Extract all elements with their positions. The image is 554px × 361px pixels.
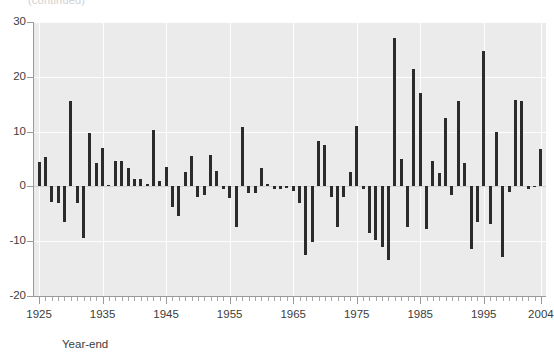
x-tick-mark-minor: [141, 297, 142, 301]
x-tick-mark-minor: [439, 297, 440, 301]
y-axis-spine: [33, 22, 34, 297]
x-tick-mark-minor: [147, 297, 148, 301]
bar: [431, 161, 434, 187]
x-tick-mark-minor: [446, 297, 447, 301]
x-tick-mark-minor: [395, 297, 396, 301]
bar: [260, 168, 263, 187]
bar: [120, 161, 123, 186]
x-tick-mark-minor: [350, 297, 351, 301]
bar: [342, 186, 345, 197]
x-tick-mark-minor: [134, 297, 135, 301]
bar: [235, 186, 238, 227]
x-tick-label: 1975: [344, 308, 370, 320]
x-axis-title: Year-end: [62, 338, 108, 350]
x-tick-mark-minor: [172, 297, 173, 301]
bar: [114, 161, 117, 186]
bar: [374, 186, 377, 239]
x-tick-mark-minor: [433, 297, 434, 301]
x-tick-label: 1965: [280, 308, 306, 320]
x-tick-mark-major: [420, 297, 421, 304]
x-tick-mark-minor: [185, 297, 186, 301]
bar: [381, 186, 384, 246]
clipped-title: (continued): [28, 0, 328, 6]
bar: [63, 186, 66, 222]
bar: [489, 186, 492, 224]
x-tick-mark-minor: [490, 297, 491, 301]
bar: [171, 186, 174, 207]
bar: [209, 155, 212, 187]
x-tick-mark-minor: [528, 297, 529, 301]
bar: [362, 186, 365, 188]
x-tick-mark-minor: [71, 297, 72, 301]
x-tick-label: 1955: [217, 308, 243, 320]
x-tick-mark-minor: [204, 297, 205, 301]
x-tick-mark-minor: [90, 297, 91, 301]
bar: [241, 127, 244, 186]
x-tick-mark-major: [293, 297, 294, 304]
bar: [463, 163, 466, 186]
x-tick-mark-minor: [414, 297, 415, 301]
bar: [304, 186, 307, 255]
x-tick-mark-minor: [153, 297, 154, 301]
bar: [450, 186, 453, 194]
x-tick-mark-major: [484, 297, 485, 304]
bar: [50, 186, 53, 202]
x-tick-mark-minor: [306, 297, 307, 301]
x-tick-mark-minor: [58, 297, 59, 301]
x-tick-mark-minor: [401, 297, 402, 301]
bar: [76, 186, 79, 203]
bar: [152, 130, 155, 186]
bar: [330, 186, 333, 196]
x-tick-mark-minor: [331, 297, 332, 301]
plot-area: [34, 22, 546, 296]
x-tick-mark-minor: [64, 297, 65, 301]
x-tick-mark-minor: [535, 297, 536, 301]
bar: [533, 186, 536, 187]
y-tick-label: -10: [0, 235, 26, 247]
x-tick-mark-minor: [96, 297, 97, 301]
x-tick-mark-minor: [274, 297, 275, 301]
bar: [38, 162, 41, 186]
gridline-horizontal: [34, 77, 546, 78]
bar: [158, 181, 161, 186]
x-tick-mark-minor: [84, 297, 85, 301]
x-tick-mark-minor: [236, 297, 237, 301]
bar: [69, 101, 72, 186]
bar: [501, 186, 504, 256]
x-tick-mark-minor: [509, 297, 510, 301]
x-tick-mark-minor: [128, 297, 129, 301]
bar: [317, 141, 320, 186]
x-tick-mark-minor: [427, 297, 428, 301]
bar: [203, 186, 206, 194]
bar: [539, 149, 542, 186]
bar: [298, 186, 301, 203]
x-tick-mark-minor: [255, 297, 256, 301]
x-tick-mark-minor: [261, 297, 262, 301]
gridline-vertical: [166, 22, 167, 296]
bar: [425, 186, 428, 228]
bar: [292, 186, 295, 190]
gridline-horizontal: [34, 132, 546, 133]
x-tick-mark-minor: [300, 297, 301, 301]
x-tick-label: 2004: [528, 308, 554, 320]
bar: [95, 163, 98, 187]
x-tick-mark-minor: [325, 297, 326, 301]
bar: [400, 159, 403, 186]
y-axis-labels: 3020100-10-20: [0, 0, 26, 361]
bar: [355, 126, 358, 186]
y-tick-label: 10: [0, 126, 26, 138]
x-tick-mark-minor: [280, 297, 281, 301]
bar: [279, 186, 282, 188]
x-tick-label: 1995: [471, 308, 497, 320]
bar: [495, 132, 498, 187]
x-tick-mark-minor: [160, 297, 161, 301]
gridline-vertical: [39, 22, 40, 296]
x-tick-mark-minor: [516, 297, 517, 301]
x-tick-mark-minor: [268, 297, 269, 301]
y-tick-label: 20: [0, 71, 26, 83]
bar: [254, 186, 257, 193]
bar: [368, 186, 371, 233]
x-tick-mark-minor: [477, 297, 478, 301]
x-tick-mark-minor: [471, 297, 472, 301]
